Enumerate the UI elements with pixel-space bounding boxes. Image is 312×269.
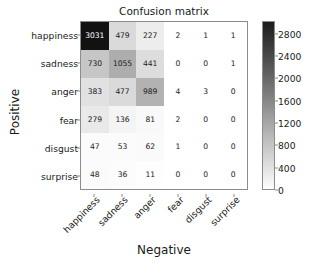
matrix-cell: 989 xyxy=(136,78,164,106)
x-axis-title: Negative xyxy=(80,243,248,257)
y-axis-tick-mark xyxy=(77,175,81,176)
confusion-matrix-figure: Confusion matrix 30314792272117301055441… xyxy=(0,0,312,269)
colorbar-tick-label: 800 xyxy=(278,140,296,151)
y-axis-tick-mark xyxy=(77,119,81,120)
x-axis-tick-mark xyxy=(150,194,151,198)
matrix-cell: 227 xyxy=(136,22,164,50)
colorbar-tick-mark xyxy=(275,33,278,34)
matrix-cell: 81 xyxy=(136,106,164,134)
x-axis-tick-mark xyxy=(234,194,235,198)
x-axis-tick-mark xyxy=(178,194,179,198)
matrix-grid: 3031479227211730105544100138347798943027… xyxy=(81,22,247,189)
matrix-cell: 36 xyxy=(109,161,137,189)
chart-title: Confusion matrix xyxy=(80,5,248,17)
matrix-cell: 441 xyxy=(136,50,164,78)
matrix-cell: 0 xyxy=(219,161,247,189)
y-axis-tick-mark xyxy=(77,35,81,36)
matrix-cell: 0 xyxy=(219,106,247,134)
matrix-cell: 53 xyxy=(109,133,137,161)
colorbar-tick-label: 1600 xyxy=(278,95,301,106)
matrix-cell: 0 xyxy=(219,133,247,161)
colorbar-gradient xyxy=(262,21,275,190)
matrix-cell: 0 xyxy=(164,161,192,189)
matrix-cell: 383 xyxy=(81,78,109,106)
y-axis-tick-mark xyxy=(77,147,81,148)
y-axis-tick-mark xyxy=(77,63,81,64)
colorbar-tick-mark xyxy=(275,100,278,101)
colorbar-tick-mark xyxy=(275,167,278,168)
x-axis-tick-mark xyxy=(206,194,207,198)
colorbar-tick-label: 2000 xyxy=(278,73,301,84)
matrix-cell: 3 xyxy=(192,78,220,106)
matrix-cell: 2 xyxy=(164,106,192,134)
colorbar-tick-label: 1200 xyxy=(278,118,301,129)
colorbar-tick-label: 2400 xyxy=(278,51,301,62)
matrix-cell: 0 xyxy=(192,161,220,189)
matrix-cell: 48 xyxy=(81,161,109,189)
matrix-cell: 730 xyxy=(81,50,109,78)
colorbar-tick-label: 2800 xyxy=(278,28,301,39)
colorbar-tick-label: 0 xyxy=(278,185,284,196)
matrix-cell: 0 xyxy=(164,50,192,78)
y-axis-title: Positive xyxy=(8,57,22,167)
matrix-cell: 62 xyxy=(136,133,164,161)
colorbar-tick-mark xyxy=(275,78,278,79)
y-axis-tick-mark xyxy=(77,91,81,92)
colorbar-tick-label: 400 xyxy=(278,162,296,173)
matrix-cell: 0 xyxy=(192,50,220,78)
x-axis-tick-mark xyxy=(122,194,123,198)
x-axis-tick-mark xyxy=(94,194,95,198)
matrix-cell: 0 xyxy=(219,78,247,106)
matrix-cell: 1 xyxy=(219,50,247,78)
heatmap-plot-area: 3031479227211730105544100138347798943027… xyxy=(80,21,248,190)
colorbar xyxy=(262,21,275,190)
matrix-cell: 0 xyxy=(192,133,220,161)
matrix-cell: 477 xyxy=(109,78,137,106)
matrix-cell: 479 xyxy=(109,22,137,50)
matrix-cell: 1 xyxy=(192,22,220,50)
matrix-cell: 1 xyxy=(219,22,247,50)
matrix-cell: 1055 xyxy=(109,50,137,78)
colorbar-tick-mark xyxy=(275,190,278,191)
matrix-cell: 11 xyxy=(136,161,164,189)
colorbar-tick-mark xyxy=(275,123,278,124)
matrix-cell: 3031 xyxy=(81,22,109,50)
matrix-cell: 1 xyxy=(164,133,192,161)
colorbar-tick-mark xyxy=(275,56,278,57)
matrix-cell: 279 xyxy=(81,106,109,134)
matrix-cell: 2 xyxy=(164,22,192,50)
matrix-cell: 0 xyxy=(192,106,220,134)
matrix-cell: 4 xyxy=(164,78,192,106)
y-axis-tick-label: happiness xyxy=(0,30,78,41)
y-axis-tick-label: surprise xyxy=(0,170,78,181)
matrix-cell: 47 xyxy=(81,133,109,161)
matrix-cell: 136 xyxy=(109,106,137,134)
colorbar-tick-mark xyxy=(275,145,278,146)
